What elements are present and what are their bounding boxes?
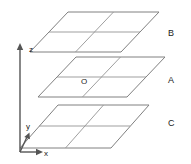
figure-canvas: z x y O B A C bbox=[0, 0, 191, 164]
origin-label: O bbox=[81, 77, 87, 86]
x-axis-label: x bbox=[44, 149, 48, 158]
plane-c-label: C bbox=[168, 118, 175, 128]
y-axis-line bbox=[20, 137, 27, 152]
plane-b-label: B bbox=[168, 28, 174, 38]
plane-c-grid-diagonal bbox=[66, 105, 104, 148]
y-axis-label: y bbox=[26, 122, 30, 131]
z-axis-arrowhead bbox=[17, 43, 23, 50]
plane-a bbox=[38, 57, 165, 97]
z-axis-label: z bbox=[29, 45, 33, 54]
x-axis-arrowhead bbox=[36, 149, 43, 155]
coordinate-axes bbox=[17, 43, 43, 155]
planes-diagram: z x y O B A C bbox=[0, 0, 191, 164]
plane-b bbox=[30, 12, 159, 52]
plane-a-label: A bbox=[168, 75, 174, 85]
plane-c bbox=[20, 105, 149, 148]
